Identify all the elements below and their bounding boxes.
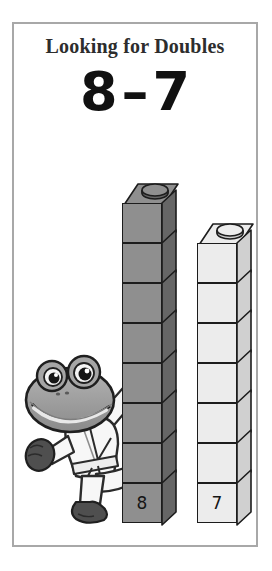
page-title: Looking for Doubles [14, 35, 256, 58]
cube-front-face [197, 443, 237, 483]
lesson-card: Looking for Doubles 8–7 8 7 [12, 22, 258, 547]
cube-front-face [122, 363, 162, 403]
cube-block [197, 363, 237, 403]
cube-front-face [122, 243, 162, 283]
cube-block [122, 283, 162, 323]
cube-front-face [197, 243, 237, 283]
cube-front-face [197, 323, 237, 363]
cube-count-label: 8 [122, 483, 162, 523]
cube-block [197, 323, 237, 363]
cube-block [197, 283, 237, 323]
cube-count-label: 7 [197, 483, 237, 523]
cube-front-face [122, 283, 162, 323]
cube-front-face [197, 283, 237, 323]
cube-block [122, 323, 162, 363]
equation-operator: – [118, 60, 153, 123]
cube-block [197, 403, 237, 443]
cube-block [122, 403, 162, 443]
equation-right-operand: 7 [153, 60, 191, 123]
cube-block [122, 363, 162, 403]
cube-block [122, 243, 162, 283]
cube-front-face [122, 323, 162, 363]
cube-block: 7 [197, 483, 237, 523]
cube-block: 8 [122, 483, 162, 523]
cube-tower-gray: 8 [122, 181, 176, 523]
equation: 8–7 [14, 61, 256, 123]
cube-front-face [122, 403, 162, 443]
cube-block [122, 203, 162, 243]
cube-front-face [122, 443, 162, 483]
cube-front-face [197, 403, 237, 443]
cube-front-face [122, 203, 162, 243]
equation-left-operand: 8 [80, 60, 118, 123]
cube-front-face [197, 363, 237, 403]
cube-block [197, 243, 237, 283]
cube-tower-white: 7 [197, 221, 251, 523]
cube-block [197, 443, 237, 483]
cube-block [122, 443, 162, 483]
